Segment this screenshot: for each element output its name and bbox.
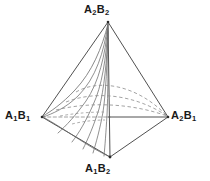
vertex-label-bottom-b: B [98,162,106,174]
surface-contour-4 [83,30,108,149]
vertex-label-top-a-sub: 2 [92,8,97,17]
edge-top-to-left [42,22,108,117]
vertex-label-left-b-sub: 1 [26,114,31,123]
vertex-label-right-b: B [184,109,192,121]
vertex-label-left: A1B1 [5,110,30,121]
vertex-dot-right [167,116,170,119]
vertex-dot-left [41,116,44,119]
vertex-label-top-b: B [97,3,105,15]
surface-contour-3 [72,28,108,142]
surface-contour-1 [43,24,108,117]
surface-near-dashes [60,112,105,124]
figure-container: A2B2 A1B1 A2B1 A1B2 [0,0,210,181]
vertex-label-bottom-b-sub: 2 [106,167,111,176]
vertex-label-right: A2B1 [171,110,196,121]
vertex-label-top-a: A [84,3,92,15]
edge-top-to-right [108,22,168,117]
edge-right-to-bottom [110,117,168,157]
vertex-label-right-a: A [171,109,179,121]
vertex-label-top: A2B2 [84,4,109,15]
vertex-label-bottom: A1B2 [85,163,110,174]
surface-near-dash-2 [72,120,105,124]
vertex-label-bottom-a-sub: 1 [93,167,98,176]
vertex-label-right-b-sub: 1 [192,114,197,123]
vertex-label-left-b: B [18,109,26,121]
surface-dashed-arc-1 [76,85,166,115]
vertex-dot-top [107,21,110,24]
vertex-dot-bottom [109,156,112,159]
vertex-label-left-a: A [5,109,13,121]
tetrahedron-diagram-svg [0,0,210,181]
vertex-label-right-a-sub: 2 [179,114,184,123]
vertex-label-top-b-sub: 2 [105,8,110,17]
vertex-label-left-a-sub: 1 [13,114,18,123]
vertex-label-bottom-a: A [85,162,93,174]
